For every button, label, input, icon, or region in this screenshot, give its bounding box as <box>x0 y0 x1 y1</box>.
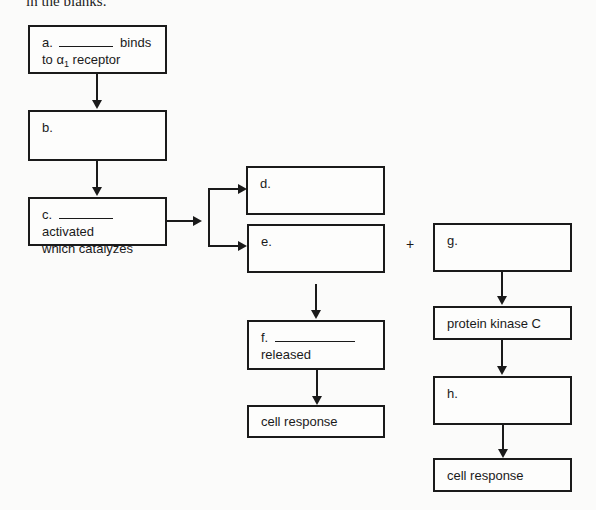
branch-to-e <box>208 245 240 247</box>
box-e-label: e. <box>261 234 272 249</box>
box-h[interactable]: h. <box>433 376 572 425</box>
arrow-h-to-response <box>502 425 504 450</box>
cell-response-label: cell response <box>447 467 524 484</box>
instruction-fragment: in the blanks. <box>26 0 106 10</box>
box-h-label: h. <box>447 386 458 401</box>
box-d[interactable]: d. <box>246 166 385 215</box>
arrow-b-to-c <box>96 161 98 189</box>
box-a-ligand-binds: a. binds to α1 receptor <box>28 25 167 74</box>
cell-response-label: cell response <box>261 413 338 430</box>
branch-connector <box>208 188 210 246</box>
box-c-line2: which catalyzes <box>42 241 133 256</box>
box-cell-response-h: cell response <box>433 458 572 492</box>
box-a-text: binds <box>120 35 151 50</box>
plus-sign: + <box>406 236 414 252</box>
box-c-label: c. <box>42 207 52 222</box>
arrowhead-down-icon <box>312 396 322 405</box>
box-b-label: b. <box>42 120 53 135</box>
arrowhead-down-icon <box>498 449 508 458</box>
box-a-label: a. <box>42 35 53 50</box>
arrow-c-to-branch <box>167 220 195 222</box>
pkc-label: protein kinase C <box>447 315 541 332</box>
box-a-line2-suffix: receptor <box>69 52 120 67</box>
arrowhead-down-icon <box>497 296 507 305</box>
box-e[interactable]: e. <box>247 224 385 273</box>
blank-f[interactable] <box>275 329 355 342</box>
arrowhead-down-icon <box>92 100 102 109</box>
arrowhead-down-icon <box>497 366 507 375</box>
arrowhead-right-icon <box>193 216 202 226</box>
blank-a[interactable] <box>59 34 113 47</box>
box-d-label: d. <box>260 176 271 191</box>
box-cell-response-f: cell response <box>247 405 385 438</box>
alpha-symbol: α <box>56 52 64 67</box>
box-f-label: f. <box>261 330 268 345</box>
arrowhead-down-icon <box>311 310 321 319</box>
arrowhead-down-icon <box>92 187 102 196</box>
box-c-text: activated <box>42 224 94 239</box>
box-a-line2-prefix: to <box>42 52 56 67</box>
box-f-line2: released <box>261 347 311 362</box>
box-c-enzyme-activated: c. activated which catalyzes <box>28 197 167 246</box>
arrow-e-to-f <box>315 284 317 312</box>
box-b[interactable]: b. <box>28 110 167 161</box>
arrow-g-to-pkc <box>501 272 503 298</box>
box-protein-kinase-c: protein kinase C <box>433 306 572 340</box>
box-g-label: g. <box>447 233 458 248</box>
blank-c[interactable] <box>59 206 113 219</box>
arrow-a-to-b <box>96 74 98 102</box>
box-f-released: f. released <box>247 320 385 370</box>
arrowhead-right-icon <box>238 241 247 251</box>
arrow-pkc-to-h <box>501 340 503 368</box>
box-g[interactable]: g. <box>433 223 572 272</box>
branch-to-d <box>208 188 240 190</box>
arrow-f-to-response <box>316 370 318 397</box>
